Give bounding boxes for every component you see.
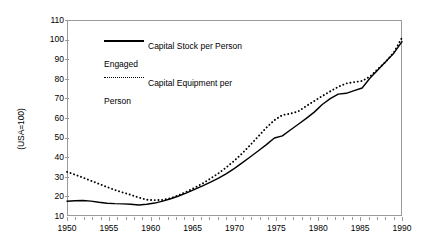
x-axis-tick-mark	[193, 217, 194, 221]
x-axis-tick-mark	[151, 217, 152, 221]
legend-item-label: Capital Equipment per Person	[104, 78, 232, 106]
legend-item-label: Capital Stock per Person Engaged	[104, 41, 242, 69]
x-axis-tick-label: 1985	[340, 224, 380, 233]
x-axis-tick-mark	[243, 217, 244, 220]
x-axis-tick-label: 1960	[131, 224, 171, 233]
x-axis-tick-mark	[302, 217, 303, 220]
x-axis-tick-mark	[184, 217, 185, 220]
x-axis-tick-mark	[235, 217, 236, 221]
x-axis-tick-mark	[209, 217, 210, 220]
legend-item: Capital Stock per Person Engaged	[104, 35, 304, 71]
x-axis-tick-mark	[260, 217, 261, 220]
x-axis-tick-mark	[109, 217, 110, 221]
x-axis-tick-mark	[318, 217, 319, 221]
x-axis-tick-mark	[101, 217, 102, 220]
x-axis-tick-mark	[92, 217, 93, 220]
x-axis-tick-mark	[75, 217, 76, 220]
x-axis-tick-label: 1950	[47, 224, 87, 233]
legend-item: Capital Equipment per Person	[104, 72, 304, 108]
x-axis-tick-mark	[360, 217, 361, 221]
legend-dotted-line-icon	[104, 77, 144, 78]
x-axis-tick-mark	[226, 217, 227, 220]
x-axis-tick-mark	[276, 217, 277, 221]
x-axis-tick-mark	[394, 217, 395, 220]
x-axis-tick-mark	[176, 217, 177, 220]
x-axis-tick-mark	[352, 217, 353, 220]
x-axis-tick-mark	[335, 217, 336, 220]
x-axis-tick-mark	[343, 217, 344, 220]
x-axis-tick-mark	[201, 217, 202, 220]
x-axis-tick-mark	[117, 217, 118, 220]
x-axis-tick-mark	[142, 217, 143, 220]
x-axis-tick-mark	[293, 217, 294, 220]
chart-legend: Capital Stock per Person Engaged Capital…	[104, 35, 304, 109]
x-axis-tick-label: 1990	[382, 224, 422, 233]
x-axis-tick-mark	[385, 217, 386, 220]
x-axis-tick-label: 1970	[215, 224, 255, 233]
x-axis-tick-mark	[402, 217, 403, 221]
x-axis-tick-mark	[285, 217, 286, 220]
x-axis-tick-mark	[377, 217, 378, 220]
legend-solid-line-icon	[104, 40, 144, 42]
x-axis-tick-mark	[126, 217, 127, 220]
x-axis-tick-mark	[310, 217, 311, 220]
chart-container: (USA=100) 102030405060708090100110 19501…	[0, 0, 433, 250]
x-axis-tick-mark	[268, 217, 269, 220]
x-axis-tick-mark	[218, 217, 219, 220]
x-axis-tick-label: 1980	[298, 224, 338, 233]
x-axis-tick-label: 1975	[256, 224, 296, 233]
x-axis-tick-mark	[134, 217, 135, 220]
x-axis-tick-label: 1955	[89, 224, 129, 233]
x-axis-tick-mark	[251, 217, 252, 220]
x-axis-tick-label: 1965	[173, 224, 213, 233]
x-axis-tick-mark	[327, 217, 328, 220]
x-axis-tick-mark	[84, 217, 85, 220]
x-axis-tick-mark	[67, 217, 68, 221]
x-axis-tick-mark	[168, 217, 169, 220]
x-axis-tick-mark	[369, 217, 370, 220]
x-axis-tick-mark	[159, 217, 160, 220]
